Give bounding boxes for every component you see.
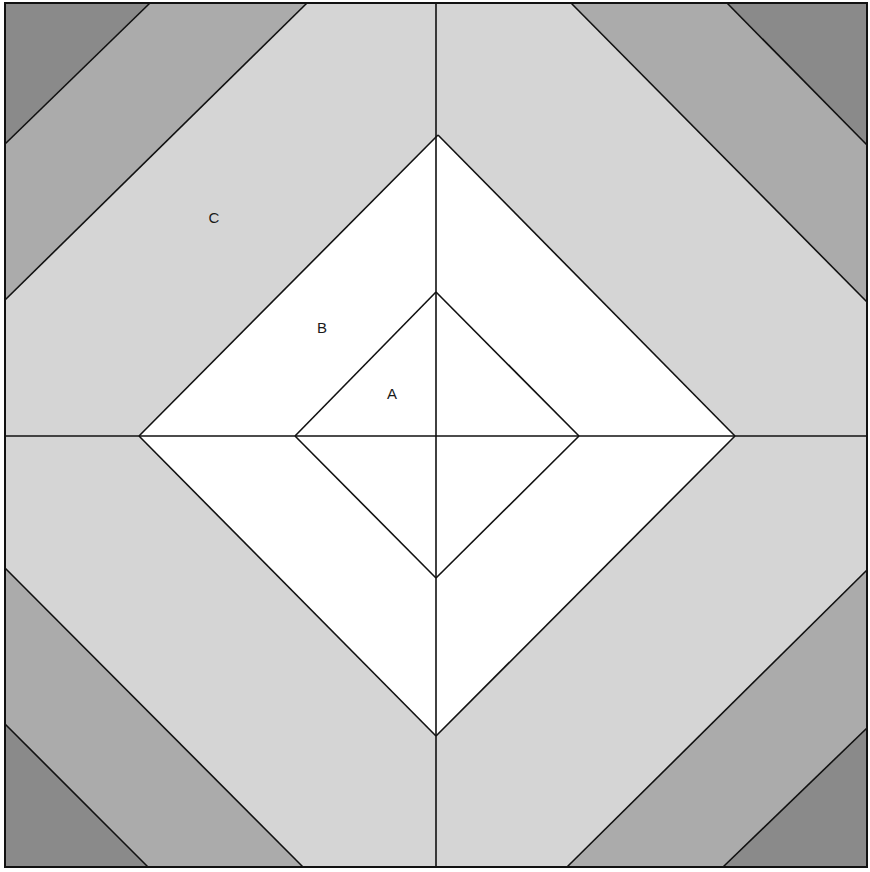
nested-square-diagram — [0, 0, 870, 872]
label-b: B — [317, 320, 327, 335]
label-c: C — [209, 210, 220, 225]
label-a: A — [387, 386, 397, 401]
